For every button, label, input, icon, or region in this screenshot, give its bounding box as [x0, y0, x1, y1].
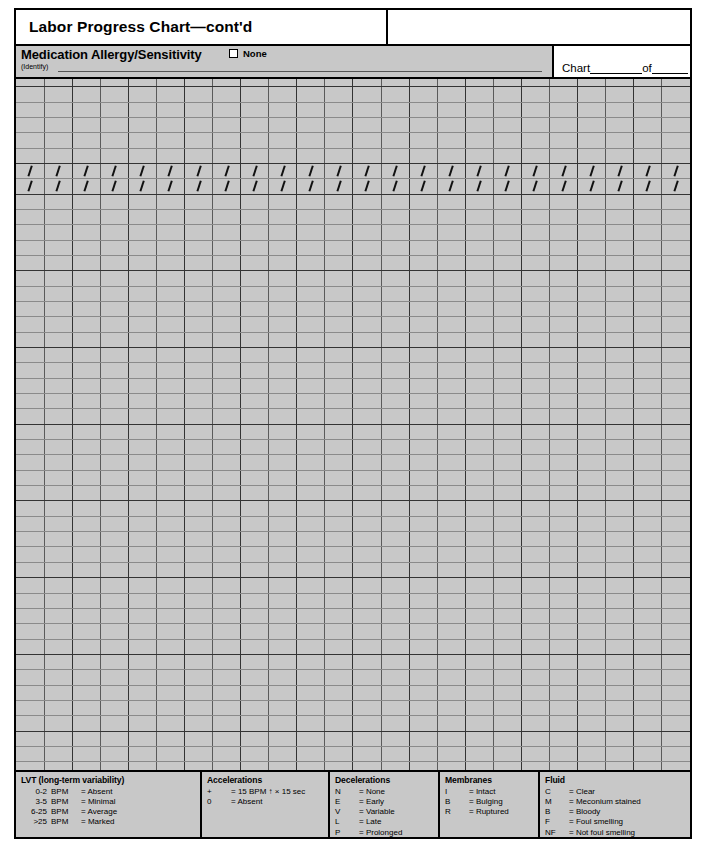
grid-cell[interactable] [606, 394, 634, 409]
grid-cell[interactable] [662, 516, 690, 531]
grid-row[interactable] [16, 133, 690, 148]
grid-cell[interactable] [297, 547, 325, 562]
grid-cell[interactable] [606, 148, 634, 163]
grid-cell[interactable] [521, 301, 549, 316]
grid-cell[interactable] [100, 455, 128, 470]
grid-cell[interactable] [353, 578, 381, 593]
grid-cell[interactable] [184, 363, 212, 378]
grid-cell[interactable] [521, 348, 549, 363]
grid-cell[interactable] [72, 440, 100, 455]
grid-cell[interactable] [521, 255, 549, 270]
grid-cell[interactable] [409, 409, 437, 424]
grid-cell[interactable] [128, 593, 156, 608]
grid-cell[interactable] [72, 79, 100, 87]
grid-cell[interactable] [325, 424, 353, 439]
grid-cell[interactable] [549, 225, 577, 240]
grid-row[interactable] [16, 578, 690, 593]
grid-row[interactable] [16, 79, 690, 87]
grid-cell[interactable] [465, 79, 493, 87]
grid-cell[interactable] [662, 209, 690, 224]
grid-cell[interactable] [184, 317, 212, 332]
grid-cell[interactable] [381, 209, 409, 224]
grid-cell[interactable] [100, 562, 128, 577]
grid-cell[interactable] [353, 378, 381, 393]
grid-cell[interactable] [128, 532, 156, 547]
grid-cell[interactable] [549, 79, 577, 87]
grid-cell[interactable] [606, 547, 634, 562]
grid-cell[interactable] [213, 685, 241, 700]
grid-cell[interactable] [44, 79, 72, 87]
grid-cell[interactable] [297, 394, 325, 409]
grid-cell[interactable] [44, 117, 72, 132]
grid-cell[interactable] [549, 608, 577, 623]
grid-cell[interactable] [128, 117, 156, 132]
grid-cell[interactable] [634, 378, 662, 393]
grid-cell[interactable] [241, 562, 269, 577]
grid-cell[interactable] [269, 409, 297, 424]
grid-cell[interactable] [578, 409, 606, 424]
grid-cell[interactable] [100, 670, 128, 685]
grid-cell[interactable] [184, 746, 212, 761]
grid-row[interactable] [16, 87, 690, 102]
grid-cell[interactable] [578, 639, 606, 654]
grid-cell[interactable] [241, 486, 269, 501]
grid-cell[interactable] [409, 762, 437, 770]
grid-cell[interactable] [437, 133, 465, 148]
grid-cell[interactable] [549, 240, 577, 255]
grid-cell[interactable] [549, 363, 577, 378]
grid-cell[interactable] [213, 440, 241, 455]
grid-row[interactable] [16, 685, 690, 700]
grid-cell[interactable] [606, 348, 634, 363]
grid-cell[interactable] [634, 593, 662, 608]
grid-cell[interactable] [44, 87, 72, 102]
grid-cell[interactable] [634, 470, 662, 485]
grid-cell[interactable] [44, 532, 72, 547]
grid-cell[interactable] [16, 654, 44, 669]
grid-cell[interactable] [381, 670, 409, 685]
grid-cell[interactable] [213, 455, 241, 470]
grid-cell[interactable] [634, 79, 662, 87]
grid-cell[interactable] [437, 378, 465, 393]
grid-cell[interactable] [213, 317, 241, 332]
grid-cell[interactable] [269, 685, 297, 700]
grid-cell[interactable] [100, 639, 128, 654]
grid-cell[interactable] [269, 255, 297, 270]
grid-cell[interactable] [549, 700, 577, 715]
grid-cell[interactable] [325, 225, 353, 240]
grid-cell[interactable] [493, 286, 521, 301]
grid-cell[interactable] [72, 624, 100, 639]
grid-cell[interactable] [297, 639, 325, 654]
grid-cell[interactable] [325, 240, 353, 255]
grid-cell[interactable] [241, 501, 269, 516]
grid-cell[interactable] [16, 593, 44, 608]
grid-cell[interactable] [156, 348, 184, 363]
grid-cell[interactable] [437, 486, 465, 501]
grid-cell[interactable] [493, 394, 521, 409]
grid-cell[interactable] [521, 179, 549, 194]
grid-cell[interactable] [100, 378, 128, 393]
grid-cell[interactable] [409, 440, 437, 455]
grid-cell[interactable] [549, 102, 577, 117]
grid-cell[interactable] [465, 746, 493, 761]
grid-cell[interactable] [44, 194, 72, 209]
grid-cell[interactable] [437, 102, 465, 117]
grid-cell[interactable] [437, 240, 465, 255]
grid-cell[interactable] [465, 363, 493, 378]
grid-row[interactable] [16, 194, 690, 209]
grid-cell[interactable] [634, 409, 662, 424]
grid-cell[interactable] [465, 624, 493, 639]
grid-cell[interactable] [72, 731, 100, 746]
grid-cell[interactable] [213, 240, 241, 255]
grid-cell[interactable] [521, 286, 549, 301]
grid-cell[interactable] [578, 624, 606, 639]
grid-cell[interactable] [156, 79, 184, 87]
grid-cell[interactable] [16, 685, 44, 700]
grid-cell[interactable] [241, 117, 269, 132]
grid-cell[interactable] [606, 624, 634, 639]
grid-cell[interactable] [634, 271, 662, 286]
grid-cell[interactable] [44, 516, 72, 531]
grid-cell[interactable] [156, 286, 184, 301]
grid-cell[interactable] [128, 133, 156, 148]
grid-cell[interactable] [72, 240, 100, 255]
grid-cell[interactable] [549, 409, 577, 424]
